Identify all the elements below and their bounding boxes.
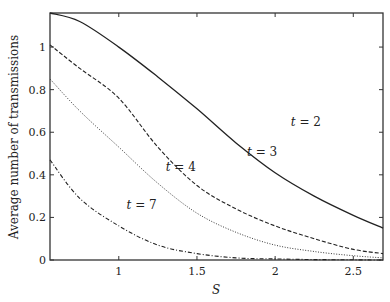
y-tick-label: 0 — [39, 254, 46, 267]
series-line — [50, 45, 383, 254]
series-line — [50, 79, 383, 258]
y-tick-label: 0.6 — [29, 126, 47, 139]
plot-frame — [50, 13, 383, 260]
x-tick-label: 1 — [115, 265, 122, 278]
x-tick-label: 2 — [272, 265, 279, 278]
series-line — [50, 13, 383, 228]
y-axis-ticks: 00.20.40.60.81 — [29, 41, 384, 267]
line-chart: 11.522.5 00.20.40.60.81 t = 2t = 3t = 4t… — [0, 0, 390, 302]
y-tick-label: 0.2 — [29, 211, 47, 224]
curve-label: t = 3 — [247, 145, 277, 159]
x-axis-label: S — [212, 283, 220, 297]
y-tick-label: 0.8 — [29, 84, 47, 97]
y-axis-label: Average number of transmissions — [7, 35, 21, 240]
x-tick-label: 2.5 — [345, 265, 363, 278]
curve-labels: t = 2t = 3t = 4t = 7 — [127, 115, 321, 212]
y-tick-label: 0.4 — [29, 169, 47, 182]
curve-label: t = 2 — [291, 115, 321, 129]
plot-area-border — [50, 13, 383, 260]
series-line — [50, 160, 383, 260]
x-tick-label: 1.5 — [188, 265, 206, 278]
y-tick-label: 1 — [39, 41, 46, 54]
curve-label: t = 7 — [127, 198, 157, 212]
curve-label: t = 4 — [166, 160, 197, 174]
curves — [50, 13, 383, 260]
